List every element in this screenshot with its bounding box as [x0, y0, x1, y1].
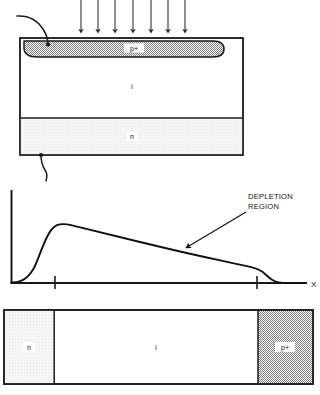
depletion-region-leader-line: [189, 212, 246, 246]
incident-light-arrows: [81, 0, 185, 30]
n-layer-label: n: [130, 133, 134, 140]
electric-field-plot: X DEPLETION REGION: [11, 190, 318, 289]
depletion-region-label-line2: REGION: [248, 202, 279, 211]
top-device-cross-section: p+ i n: [17, 0, 243, 181]
bottom-p-plus-region-label: p+: [281, 344, 289, 352]
depletion-region-label-line1: DEPLETION: [248, 192, 293, 201]
p-plus-layer-label: p+: [130, 45, 138, 53]
bottom-contact-dot: [39, 153, 43, 157]
pin-photodiode-figure: p+ i n X: [0, 0, 320, 395]
top-contact-dot: [46, 42, 50, 46]
plot-x-axis-label: X: [311, 280, 317, 289]
bottom-device-structure: n i p+: [4, 310, 313, 384]
electric-field-curve: [12, 224, 306, 283]
bottom-n-region-label: n: [27, 344, 31, 351]
bottom-contact-lead: [41, 155, 47, 181]
